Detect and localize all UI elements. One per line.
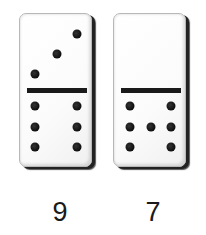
pip-dot <box>31 102 40 111</box>
domino-2-divider <box>121 88 181 93</box>
pip-dot <box>73 123 82 132</box>
pip-dot <box>73 30 82 39</box>
pip-dot <box>167 143 176 152</box>
pip-dot <box>147 123 156 132</box>
pip-dot <box>167 102 176 111</box>
pip-dot <box>31 70 40 79</box>
pip-dot <box>73 102 82 111</box>
domino-1-total-label: 9 <box>40 196 80 228</box>
pip-dot <box>126 123 135 132</box>
pip-dot <box>126 102 135 111</box>
pip-dot <box>31 123 40 132</box>
domino-tile-1 <box>19 13 92 167</box>
pip-dot <box>126 143 135 152</box>
pip-dot <box>31 143 40 152</box>
domino-tile-2 <box>113 13 186 167</box>
domino-1-divider <box>27 88 87 93</box>
pip-dot <box>167 123 176 132</box>
domino-2-total-label: 7 <box>133 196 173 228</box>
pip-dot <box>53 50 62 59</box>
pip-dot <box>73 143 82 152</box>
